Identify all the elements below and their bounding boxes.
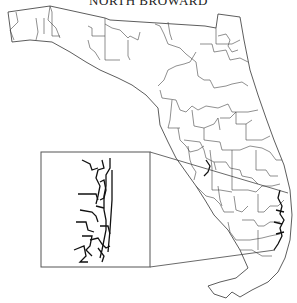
inset-north-broward xyxy=(41,152,150,267)
florida-map xyxy=(0,0,297,303)
